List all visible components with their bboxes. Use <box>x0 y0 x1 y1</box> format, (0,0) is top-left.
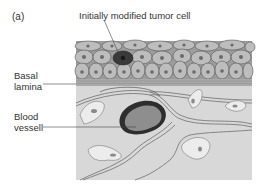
tumor-cell-nucleus <box>121 56 125 60</box>
tissue-illustration <box>0 0 266 195</box>
basal-lamina <box>76 79 252 86</box>
